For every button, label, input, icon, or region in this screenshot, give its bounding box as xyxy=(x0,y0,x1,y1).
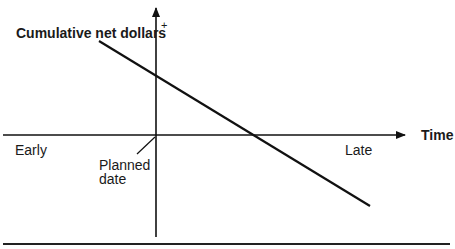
planned-date-leader xyxy=(137,137,155,154)
early-label: Early xyxy=(15,142,47,158)
positive-marker: + xyxy=(161,19,167,31)
x-axis-label: Time xyxy=(421,127,453,143)
late-label: Late xyxy=(345,142,372,158)
cumulative-net-dollars-line xyxy=(99,41,370,206)
planned-date-label-line2: date xyxy=(99,171,126,187)
y-axis-label: Cumulative net dollars xyxy=(16,25,166,41)
